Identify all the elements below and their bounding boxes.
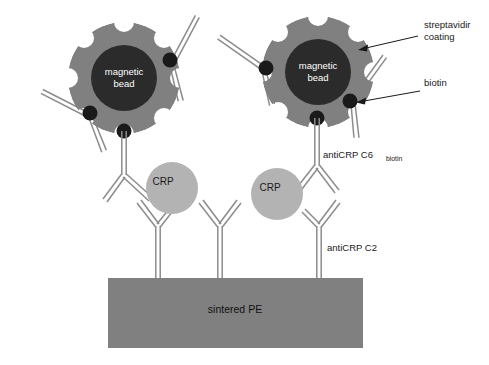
crp-label: CRP (152, 176, 173, 187)
magnetic-bead-right: magnetic bead (259, 16, 375, 128)
figure-canvas: magnetic bead magnetic bead (0, 0, 489, 365)
antibody-left-detection (103, 131, 152, 202)
crp-left: CRP (146, 162, 198, 214)
bead-core-label-left-line2: bead (113, 78, 134, 89)
biotin-dot (163, 53, 178, 68)
leader-line (364, 91, 420, 101)
leader-line (366, 36, 418, 48)
crp-circle (251, 168, 303, 220)
biotin-dot (343, 94, 358, 109)
immunoassay-schematic: magnetic bead magnetic bead (0, 0, 489, 365)
annotation-anticrp-c2: antiCRP C2 (327, 242, 377, 253)
streptavidin-label-line1: streptavidir (424, 19, 470, 30)
anticrp-c2-label: antiCRP C2 (327, 242, 377, 253)
magnetic-bead-left: magnetic bead (68, 22, 180, 139)
biotin-dot (310, 111, 325, 126)
antibody-capture-middle (199, 200, 241, 278)
annotation-streptavidin: streptavidir coating (358, 19, 470, 52)
bead-core-label-left-line1: magnetic (105, 66, 144, 77)
bead-core-label-right-line2: bead (307, 72, 328, 83)
crp-circle (146, 162, 198, 214)
substrate-label: sintered PE (208, 303, 262, 315)
biotin-label: biotin (424, 77, 447, 88)
biotin-dot (117, 124, 132, 139)
anticrp-c6-subscript: biotin (386, 155, 402, 162)
crp-right: CRP (251, 168, 303, 220)
biotin-dot (83, 106, 98, 121)
bead-core-label-right-line1: magnetic (299, 60, 338, 71)
anticrp-c6-label: antiCRP C6 (323, 149, 373, 160)
crp-label: CRP (259, 182, 280, 193)
sintered-pe-substrate: sintered PE (108, 278, 363, 348)
annotation-anticrp-c6: antiCRP C6 biotin (323, 149, 402, 162)
streptavidin-label-line2: coating (424, 31, 455, 42)
biotin-dot (259, 61, 274, 76)
antibody-capture-right (302, 200, 340, 278)
